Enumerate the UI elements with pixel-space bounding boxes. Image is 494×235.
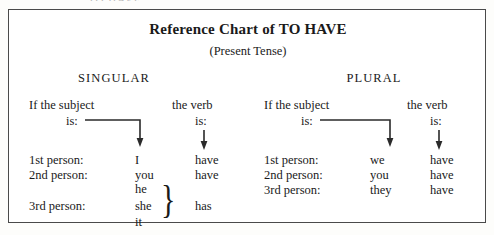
plural-subject-connector-arrow [318,110,403,150]
singular-row-3-person: 3rd person: [29,199,86,214]
singular-row-3-verb: has [195,199,212,214]
reference-chart-page: TO HAVE Reference Chart of TO HAVE (Pres… [0,0,494,235]
plural-row-2-verb: have [430,168,454,183]
plural-row-3-person: 3rd person: [264,183,321,198]
singular-row-3-pronoun-2: she [135,199,152,214]
singular-row-1-pronoun: I [135,153,139,168]
plural-row-1-verb: have [430,153,454,168]
chart-subtitle: (Present Tense) [9,44,487,59]
singular-row-2-pronoun: you [135,168,154,183]
singular-verb-down-arrow [195,128,215,152]
plural-verb-header-line1: the verb [407,98,448,113]
plural-row-3-pronoun: they [370,183,392,198]
singular-row-1-verb: have [195,153,219,168]
plural-verb-header-line2: is: [430,114,442,129]
singular-subject-connector-arrow [83,110,153,150]
singular-row-3-pronoun-3: it [135,215,142,230]
singular-subject-header-line2: is: [66,114,78,129]
singular-row-1-person: 1st person: [29,153,84,168]
plural-row-1-pronoun: we [370,153,385,168]
singular-verb-header-line2: is: [195,114,207,129]
plural-subject-header-line2: is: [301,114,313,129]
cut-off-text-above: TO HAVE [88,0,198,1]
plural-row-2-person: 2nd person: [264,168,323,183]
singular-row-3-brace: } [161,180,175,220]
singular-row-2-verb: have [195,168,219,183]
plural-verb-down-arrow [430,128,450,152]
column-heading-singular: SINGULAR [49,71,179,86]
chart-title: Reference Chart of TO HAVE [9,21,487,38]
chart-border-box: Reference Chart of TO HAVE (Present Tens… [8,9,486,223]
singular-row-2-person: 2nd person: [29,168,88,183]
plural-row-1-person: 1st person: [264,153,319,168]
singular-verb-header-line1: the verb [172,98,213,113]
plural-row-2-pronoun: you [370,168,389,183]
singular-row-3-pronoun-1: he [135,182,147,197]
plural-row-3-verb: have [430,183,454,198]
column-heading-plural: PLURAL [309,71,439,86]
